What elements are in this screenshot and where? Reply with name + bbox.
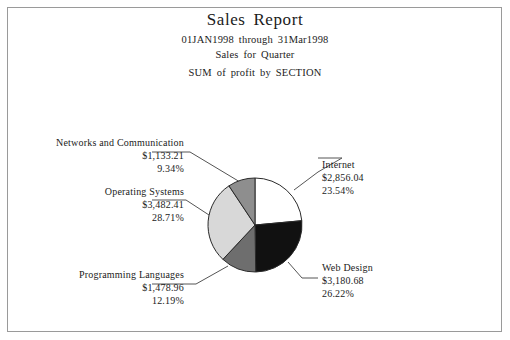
pie-slice-web-design — [255, 221, 302, 272]
slice-label-name: Operating Systems — [54, 185, 184, 198]
slice-label-name: Networks and Communication — [44, 136, 184, 149]
slice-label-internet: Internet $2,856.04 23.54% — [322, 158, 452, 197]
slice-label-percent: 28.71% — [54, 211, 184, 224]
slice-label-percent: 23.54% — [322, 184, 452, 197]
pie-slices — [208, 178, 302, 272]
leader-line-internet-b — [294, 172, 318, 190]
slice-label-networks-and-communication: Networks and Communication $1,133.21 9.3… — [44, 136, 184, 175]
slice-label-value: $1,478.96 — [34, 281, 184, 294]
pie-slice-internet — [255, 178, 302, 225]
slice-label-operating-systems: Operating Systems $3,482.41 28.71% — [54, 185, 184, 224]
sales-report-page: Sales Report 01JAN1998 through 31Mar1998… — [0, 0, 510, 340]
slice-label-name: Web Design — [322, 261, 452, 274]
slice-label-web-design: Web Design $3,180.68 26.22% — [322, 261, 452, 300]
slice-label-name: Programming Languages — [34, 268, 184, 281]
slice-label-value: $3,482.41 — [54, 198, 184, 211]
slice-label-name: Internet — [322, 158, 452, 171]
slice-label-programming-languages: Programming Languages $1,478.96 12.19% — [34, 268, 184, 307]
slice-label-value: $3,180.68 — [322, 274, 452, 287]
leader-line-web-design — [288, 262, 318, 278]
slice-label-percent: 9.34% — [44, 162, 184, 175]
slice-label-percent: 26.22% — [322, 287, 452, 300]
slice-label-value: $2,856.04 — [322, 171, 452, 184]
slice-label-percent: 12.19% — [34, 294, 184, 307]
slice-label-value: $1,133.21 — [44, 149, 184, 162]
